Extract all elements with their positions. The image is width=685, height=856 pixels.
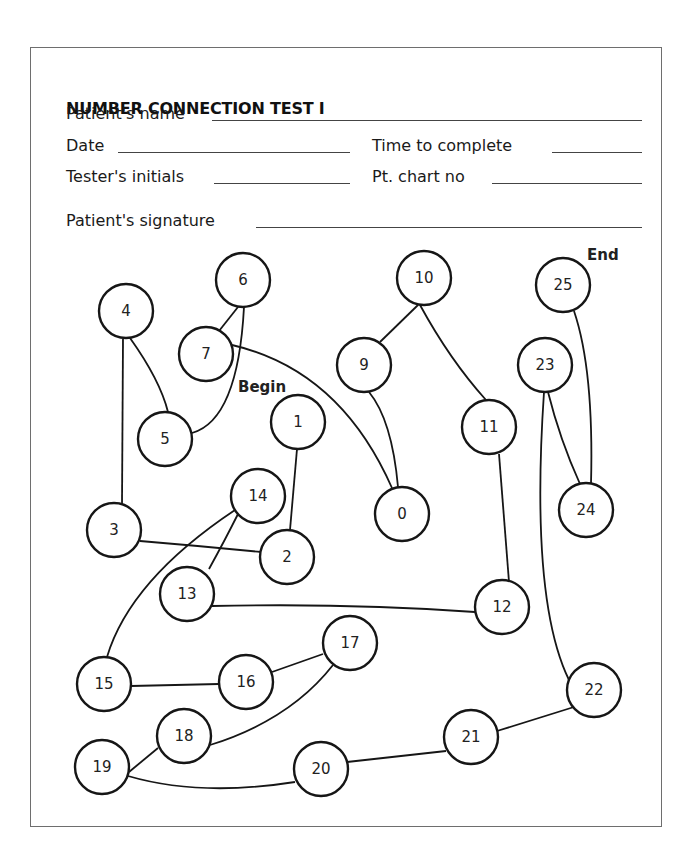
edge-11-12: [499, 454, 509, 582]
number-node[interactable]: 12: [475, 580, 529, 634]
edge-20-21: [347, 751, 446, 762]
node-label: 23: [535, 356, 554, 374]
connection-diagram: 1234567091011121314151617181920212223242…: [0, 0, 685, 856]
edge-15-16: [131, 684, 219, 686]
number-node[interactable]: 21: [444, 710, 498, 764]
edge-1-2: [290, 449, 297, 530]
node-label: 3: [109, 521, 119, 539]
node-label: 19: [92, 758, 111, 776]
number-node[interactable]: 9: [337, 338, 391, 392]
node-label: 20: [311, 760, 330, 778]
node-label: 12: [492, 598, 511, 616]
number-node[interactable]: 3: [87, 503, 141, 557]
edge-21-22: [497, 707, 574, 731]
number-node[interactable]: 22: [567, 663, 621, 717]
edge-0-9: [369, 392, 398, 487]
node-label: 1: [293, 413, 303, 431]
number-node[interactable]: 11: [462, 400, 516, 454]
edge-23-24: [548, 392, 580, 484]
edge-22-23: [540, 392, 569, 680]
node-label: 6: [238, 271, 248, 289]
number-node[interactable]: 4: [99, 284, 153, 338]
edge-18-19: [129, 748, 158, 772]
node-label: 21: [461, 728, 480, 746]
end-marker: End: [587, 246, 619, 264]
node-label: 13: [177, 585, 196, 603]
node-label: 10: [414, 269, 433, 287]
number-node[interactable]: 25: [536, 258, 590, 312]
number-node[interactable]: 19: [75, 740, 129, 794]
number-node[interactable]: 0: [375, 487, 429, 541]
node-label: 2: [282, 548, 292, 566]
number-nodes: 1234567091011121314151617181920212223242…: [75, 251, 621, 796]
edge-13-14: [209, 514, 238, 569]
edge-10-11: [420, 305, 486, 400]
node-label: 24: [576, 501, 595, 519]
node-label: 7: [201, 345, 211, 363]
node-label: 11: [479, 418, 498, 436]
number-node[interactable]: 7: [179, 327, 233, 381]
number-node[interactable]: 10: [397, 251, 451, 305]
number-node[interactable]: 15: [77, 657, 131, 711]
node-label: 17: [340, 634, 359, 652]
number-node[interactable]: 20: [294, 742, 348, 796]
number-node[interactable]: 18: [157, 709, 211, 763]
edge-6-7: [219, 307, 238, 331]
number-node[interactable]: 1: [271, 395, 325, 449]
edge-3-4: [122, 339, 123, 504]
number-node[interactable]: 14: [231, 469, 285, 523]
edge-16-17: [272, 654, 323, 672]
number-node[interactable]: 16: [219, 655, 273, 709]
number-node[interactable]: 5: [138, 412, 192, 466]
number-node[interactable]: 17: [323, 616, 377, 670]
edge-24-25: [574, 311, 591, 484]
number-node[interactable]: 24: [559, 483, 613, 537]
number-node[interactable]: 6: [216, 253, 270, 307]
node-label: 15: [94, 675, 113, 693]
node-label: 22: [584, 681, 603, 699]
node-label: 14: [248, 487, 267, 505]
number-node[interactable]: 13: [160, 567, 214, 621]
node-label: 9: [359, 356, 369, 374]
edge-2-3: [140, 541, 261, 552]
node-label: 4: [121, 302, 131, 320]
node-label: 5: [160, 430, 170, 448]
number-node[interactable]: 2: [260, 530, 314, 584]
edge-4-5: [130, 338, 168, 412]
node-label: 16: [236, 673, 255, 691]
begin-marker: Begin: [238, 378, 286, 396]
node-label: 25: [553, 276, 572, 294]
edge-19-20: [128, 776, 295, 788]
edge-9-10: [380, 305, 418, 342]
node-label: 0: [397, 505, 407, 523]
node-label: 18: [174, 727, 193, 745]
number-node[interactable]: 23: [518, 338, 572, 392]
edge-12-13: [212, 605, 475, 612]
